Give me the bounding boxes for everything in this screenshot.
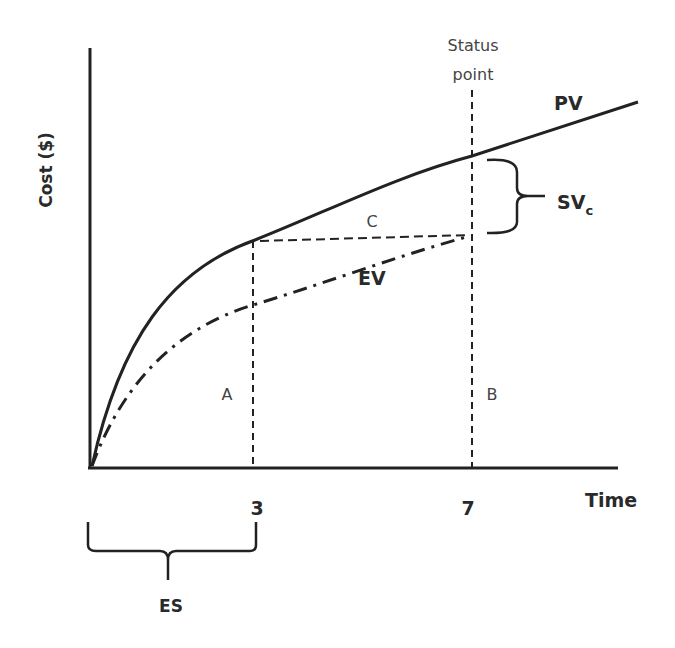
status-point-label-line2: point xyxy=(453,65,494,84)
pv-label: PV xyxy=(554,92,583,114)
x-axis-label: Time xyxy=(585,489,637,511)
ev-label: EV xyxy=(358,267,386,289)
earned-schedule-diagram: Cost ($) Time Status point PV EV SVc A B… xyxy=(0,0,675,648)
svc-brace xyxy=(487,160,545,233)
y-axis-label: Cost ($) xyxy=(36,132,56,208)
es-brace xyxy=(88,522,256,580)
status-point-label-line1: Status xyxy=(448,36,499,55)
svc-label: SVc xyxy=(557,191,593,218)
label-b: B xyxy=(487,385,498,404)
svc-label-sub: c xyxy=(585,203,593,218)
label-c: C xyxy=(366,212,377,231)
es-label: ES xyxy=(159,596,183,616)
ev-curve xyxy=(92,236,470,466)
tick-7: 7 xyxy=(461,497,474,519)
tick-3: 3 xyxy=(250,497,263,519)
dashed-line-c xyxy=(260,235,470,241)
svc-label-main: SV xyxy=(557,191,586,213)
label-a: A xyxy=(222,385,233,404)
